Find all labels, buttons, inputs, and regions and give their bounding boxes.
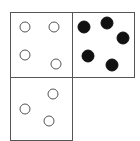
filled-circle-icon	[78, 21, 90, 33]
open-circle-icon	[48, 89, 58, 99]
filled-circle-icon	[117, 32, 129, 44]
filled-circle-icon	[106, 59, 118, 71]
open-circle-icon	[44, 116, 54, 126]
box-top-right	[73, 13, 135, 78]
filled-circle-icon	[101, 17, 113, 29]
open-circle-icon	[20, 50, 30, 60]
dot-grid-diagram	[0, 0, 140, 141]
open-circle-icon	[49, 22, 59, 32]
open-circle-icon	[20, 22, 30, 32]
open-circle-icon	[51, 59, 61, 69]
box-bottom-left	[11, 78, 73, 141]
box-border	[11, 13, 73, 78]
open-circle-icon	[20, 104, 30, 114]
filled-circle-icon	[82, 50, 94, 62]
box-top-left	[11, 13, 73, 78]
